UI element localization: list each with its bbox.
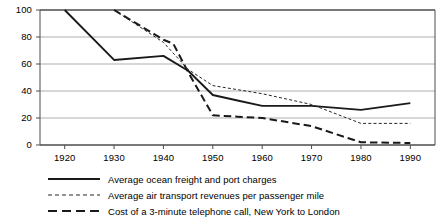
x-tick-label: 1960 <box>240 152 284 163</box>
legend-item-ocean-freight: Average ocean freight and port charges <box>46 171 446 187</box>
chart-legend: Average ocean freight and port charges A… <box>46 171 446 219</box>
legend-swatch-dashed-icon <box>46 205 102 217</box>
x-tick-label: 1940 <box>141 152 185 163</box>
legend-item-air-transport: Average air transport revenues per passe… <box>46 187 446 203</box>
axis-tick-marks <box>36 10 410 149</box>
y-tick-label: 60 <box>0 58 32 69</box>
x-tick-label: 1930 <box>92 152 136 163</box>
legend-swatch-dotted-icon <box>46 189 102 201</box>
series-line-0 <box>65 10 411 110</box>
y-tick-label: 40 <box>0 85 32 96</box>
series-lines <box>65 10 411 143</box>
y-tick-label: 100 <box>0 4 32 15</box>
legend-label-ocean-freight: Average ocean freight and port charges <box>102 174 277 185</box>
x-tick-label: 1970 <box>290 152 334 163</box>
x-tick-label: 1990 <box>388 152 432 163</box>
plot-area-frame <box>40 10 435 145</box>
legend-label-telephone-call: Cost of a 3-minute telephone call, New Y… <box>102 206 340 217</box>
gridlines <box>40 10 435 145</box>
legend-label-air-transport: Average air transport revenues per passe… <box>102 190 324 201</box>
x-tick-label: 1920 <box>43 152 87 163</box>
legend-item-telephone-call: Cost of a 3-minute telephone call, New Y… <box>46 203 446 219</box>
y-tick-label: 0 <box>0 139 32 150</box>
legend-swatch-solid-icon <box>46 173 102 185</box>
x-tick-label: 1980 <box>339 152 383 163</box>
x-tick-label: 1950 <box>191 152 235 163</box>
line-chart: 100806040200 192019301940195019601970198… <box>0 0 448 221</box>
y-tick-label: 20 <box>0 112 32 123</box>
y-tick-label: 80 <box>0 31 32 42</box>
